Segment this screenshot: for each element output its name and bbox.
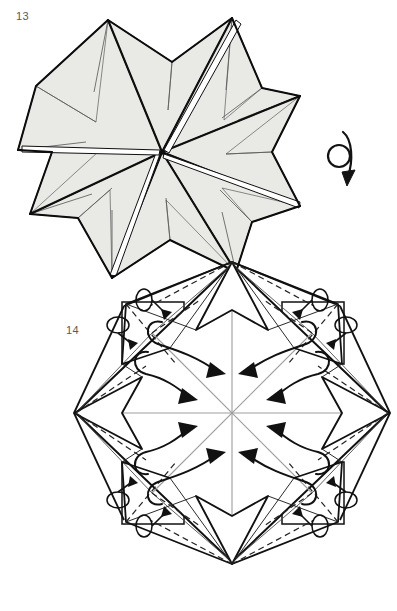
center-axes bbox=[120, 300, 344, 526]
origami-diagram-page: 13 14 bbox=[0, 0, 397, 611]
step-number-14: 14 bbox=[66, 325, 79, 336]
step-number-13: 13 bbox=[16, 11, 29, 22]
figure-14-diamond-base bbox=[0, 0, 397, 611]
